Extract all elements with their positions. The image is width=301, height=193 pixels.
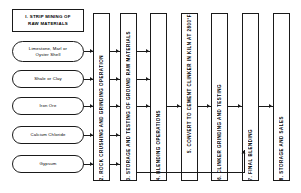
step-8-label: 8. STORAGE AND SALES — [279, 112, 284, 180]
arrowhead-step2-to-step3-d — [116, 133, 119, 137]
step-6-label: 6. CLINKER GRINDING AND TESTING — [217, 80, 222, 180]
arrowhead-step6-to-step7 — [238, 104, 241, 108]
arrowhead-step3-to-step4-c — [146, 104, 149, 108]
arrowhead-step2-to-step3-b — [116, 77, 119, 81]
raw-material-shale-label: Shale or Clay — [34, 76, 62, 82]
arrowhead-step5-to-step6 — [207, 104, 210, 108]
raw-material-gypsum: Gypsum — [12, 155, 84, 173]
arrowhead-step3-to-step4-a — [146, 49, 149, 53]
step-4-blending-box: 4. BLENDING OPERATIONS — [150, 13, 167, 181]
step-3-label: 3. STORAGE AND TESTING OF GROUND RAW MAT… — [126, 27, 131, 180]
process-flow-diagram: I. STRIP MINING OF RAW MATERIALS Limesto… — [0, 0, 301, 193]
step-3-storage-testing-box: 3. STORAGE AND TESTING OF GROUND RAW MAT… — [120, 13, 137, 181]
raw-material-gypsum-label: Gypsum — [40, 161, 57, 167]
arrowhead-step2-to-step3-e — [116, 162, 119, 166]
arrowhead-step2-to-step3-c — [116, 104, 119, 108]
step-7-label: 7. FINAL BLENDING — [248, 125, 253, 180]
step-6-clinker-grinding-box: 6. CLINKER GRINDING AND TESTING — [211, 13, 228, 181]
step-1-strip-mining-box: I. STRIP MINING OF RAW MATERIALS — [12, 9, 84, 32]
raw-material-calcium-chloride-label: Calcium Chloride — [30, 132, 65, 138]
bypass-connector-step3-to-step7 — [137, 172, 245, 173]
step-5-label: 5. CONVERT TO CEMENT CLINKER IN KILN AT … — [187, 10, 193, 180]
raw-material-limestone-label: Limestone, Marl or Oyster Shell — [29, 46, 67, 58]
step-2-rock-crushing-box: 2. ROCK CRUSHING AND GRINDING OPERATION — [93, 13, 110, 181]
step-5-kiln-clinker-box: 5. CONVERT TO CEMENT CLINKER IN KILN AT … — [181, 13, 198, 181]
raw-material-limestone: Limestone, Marl or Oyster Shell — [12, 41, 84, 62]
arrowhead-step2-to-step3-a — [116, 49, 119, 53]
step-1-label: I. STRIP MINING OF RAW MATERIALS — [25, 14, 70, 26]
raw-material-shale: Shale or Clay — [12, 70, 84, 88]
arrowhead-step4-to-step5 — [177, 104, 180, 108]
raw-material-calcium-chloride: Calcium Chloride — [12, 126, 84, 144]
step-4-label: 4. BLENDING OPERATIONS — [156, 106, 161, 180]
arrowhead-step7-to-step8 — [269, 104, 272, 108]
arrowhead-bypass-to-step7 — [242, 151, 246, 154]
step-2-label: 2. ROCK CRUSHING AND GRINDING OPERATION — [99, 51, 104, 180]
step-8-storage-sales-box: 8. STORAGE AND SALES — [273, 13, 290, 181]
arrowhead-step3-to-step4-b — [146, 77, 149, 81]
raw-material-iron-ore: Iron Ore — [12, 97, 84, 115]
raw-material-iron-ore-label: Iron Ore — [40, 103, 57, 109]
